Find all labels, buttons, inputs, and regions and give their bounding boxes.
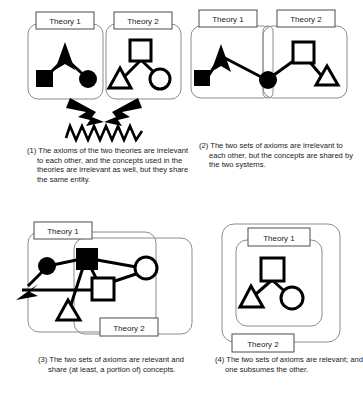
panel-4-hollow-square-node [261, 258, 284, 281]
panel-3: Theory 1 Theory 2 (3) The two sets of ax… [0, 210, 210, 417]
panel-4-theory2-label: Theory 2 [247, 340, 279, 349]
panel-2-filled-square-node [194, 70, 210, 86]
panel-3-hollow-square-node [92, 278, 114, 300]
panel-2-hollow-square-node [293, 42, 314, 63]
panel-1-filled-square-node [36, 70, 53, 87]
panel-2-diagram: Theory 1 Theory 2 [185, 0, 357, 132]
panel-3-hollow-circle-node [135, 257, 157, 279]
panel-1-diagram: Theory 1 Theory 2 [0, 0, 185, 145]
panel-1-hollow-circle-node [150, 69, 170, 89]
panel-2-shared-filled-circle-node [259, 71, 277, 89]
panel-3-theory1-label: Theory 1 [47, 227, 79, 236]
panel-2: Theory 1 Theory 2 (2) The two sets of ax… [185, 0, 357, 210]
panel-1-clash-arrowheads [66, 98, 142, 126]
panel-1-caption: (1) The axioms of the two theories are i… [27, 146, 192, 184]
panel-3-filled-square-node [76, 248, 98, 270]
panel-4-caption: (4) The two sets of axioms are relevant;… [215, 355, 363, 374]
panel-3-theory2-label: Theory 2 [113, 324, 145, 333]
panel-4-hollow-circle-node [281, 287, 303, 309]
panel-2-theory1-label: Theory 1 [212, 15, 244, 24]
panel-4: Theory 1 Theory 2 (4) The two sets of ax… [210, 210, 357, 417]
panel-4-theory1-region [236, 240, 322, 326]
panel-1-theory2-label: Theory 2 [127, 17, 159, 26]
panel-1-theory1-label: Theory 1 [49, 17, 81, 26]
panel-1-hollow-square-node [130, 40, 151, 61]
panel-3-diagram: Theory 1 Theory 2 [0, 210, 210, 358]
panel-3-filled-circle-node [38, 257, 56, 275]
panel-2-caption: (2) The two sets of axioms are irrelevan… [199, 141, 361, 170]
panel-4-theory1-label: Theory 1 [263, 234, 295, 243]
panel-4-diagram: Theory 1 Theory 2 [210, 210, 357, 358]
panel-3-caption: (3) The two sets of axioms are relevant … [38, 355, 204, 374]
panel-1-zigzag-wave [66, 126, 142, 140]
panel-1-filled-circle-node [79, 70, 97, 88]
panel-1: Theory 1 Theory 2 [0, 0, 185, 210]
panel-2-theory2-label: Theory 2 [290, 15, 322, 24]
